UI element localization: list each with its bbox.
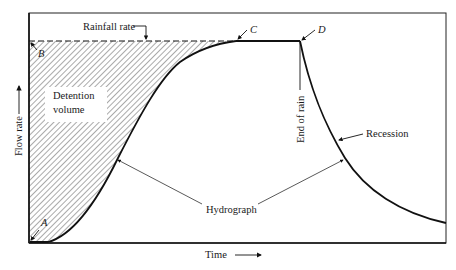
detention-volume-label-line2: volume xyxy=(53,104,85,115)
point-d-label: D xyxy=(317,24,326,35)
hydrograph-diagram: Detention volume Rainfall rate B A C D E… xyxy=(0,0,456,270)
y-axis-label: Flow rate xyxy=(13,116,24,156)
point-b-label: B xyxy=(38,48,45,59)
point-d-arrow xyxy=(302,30,315,40)
x-axis-label: Time xyxy=(205,249,227,260)
rainfall-rate-label: Rainfall rate xyxy=(83,21,136,32)
point-a-label: A xyxy=(40,217,48,228)
hydrograph-label: Hydrograph xyxy=(206,204,257,215)
point-c-label: C xyxy=(250,24,258,35)
hydrograph-arrow-right xyxy=(258,160,343,204)
detention-volume-label-line1: Detention xyxy=(53,90,95,101)
point-c-arrow xyxy=(238,30,247,39)
recession-label: Recession xyxy=(366,128,409,139)
detention-volume-region xyxy=(29,41,236,242)
recession-arrow xyxy=(339,134,363,140)
hydrograph-arrow-left xyxy=(118,160,202,204)
end-of-rain-label: End of rain xyxy=(295,95,306,143)
